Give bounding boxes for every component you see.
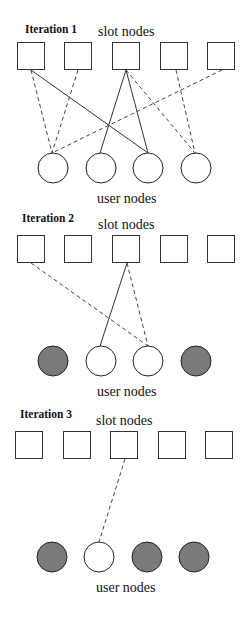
user-node-1-assigned [38,346,68,376]
user-node-1-assigned [37,542,67,572]
user-node-1 [38,153,68,183]
user-nodes [38,153,211,183]
slot-node-1 [18,43,45,70]
slot-node-4 [159,432,186,459]
iteration-label: Iteration 2 [22,212,74,224]
user-nodes [37,542,209,572]
edges [99,459,125,542]
cropped-text-fragment [0,0,248,3]
slot-nodes-label: slot nodes [98,24,154,39]
iteration-label: Iteration 1 [25,23,77,35]
iteration-label: Iteration 3 [20,408,72,420]
slot-node-3 [111,432,138,459]
edge-dashed [99,459,125,542]
slot-node-2 [64,432,91,459]
user-node-4-assigned [181,346,211,376]
edge-dashed [52,70,78,153]
slot-nodes [16,432,233,459]
slot-node-4 [161,43,188,70]
user-node-4 [181,153,211,183]
slot-node-5 [208,236,235,263]
iteration-1: Iteration 1 slot nodes user nodes [18,23,235,206]
iteration-2: Iteration 2 slot nodes user nodes [18,212,235,399]
slot-node-1 [16,432,43,459]
edges [31,263,148,346]
edge-dashed [176,70,195,153]
slot-node-5 [208,43,235,70]
user-nodes-label: user nodes [96,580,156,595]
user-node-2 [84,542,114,572]
slot-node-1 [18,236,45,263]
user-node-3-assigned [132,542,162,572]
edges [31,70,222,153]
user-node-3 [133,346,163,376]
edge-solid [100,263,127,346]
user-nodes [38,346,211,376]
slot-node-2 [65,43,92,70]
slot-nodes-label: slot nodes [96,413,152,428]
user-nodes-label: user nodes [97,191,157,206]
edge-dashed [126,70,195,153]
slot-node-5 [206,432,233,459]
slot-node-3 [113,43,140,70]
slot-nodes [18,236,235,263]
slot-node-2 [65,236,92,263]
edge-solid [100,70,126,153]
iteration-3: Iteration 3 slot nodes user nodes [16,408,233,595]
user-node-3 [133,153,163,183]
bipartite-matching-diagram: Iteration 1 slot nodes user nodes [0,0,248,617]
user-node-4-assigned [179,542,209,572]
user-node-2 [86,153,116,183]
edge-dashed [31,263,148,346]
slot-node-4 [161,236,188,263]
user-node-2 [86,346,116,376]
slot-nodes [18,43,235,70]
slot-node-3 [113,236,140,263]
slot-nodes-label: slot nodes [98,217,154,232]
user-nodes-label: user nodes [97,384,157,399]
